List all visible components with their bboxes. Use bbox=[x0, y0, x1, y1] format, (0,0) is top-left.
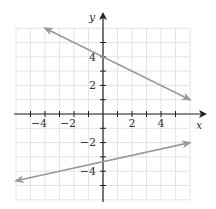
coordinate-plane: −4 −2 2 4 4 2 −2 −4 x y bbox=[0, 0, 216, 209]
y-tick-label: −2 bbox=[80, 136, 96, 149]
x-tick-label: 2 bbox=[129, 117, 136, 130]
x-tick-label: −2 bbox=[60, 117, 76, 130]
y-tick-label: −4 bbox=[80, 165, 96, 178]
x-tick-label: 4 bbox=[158, 117, 165, 130]
y-tick-label: 4 bbox=[89, 51, 96, 64]
y-tick-label: 2 bbox=[89, 79, 96, 92]
x-tick-label: −4 bbox=[31, 117, 47, 130]
y-axis-label: y bbox=[88, 11, 96, 24]
x-axis-label: x bbox=[196, 119, 203, 132]
